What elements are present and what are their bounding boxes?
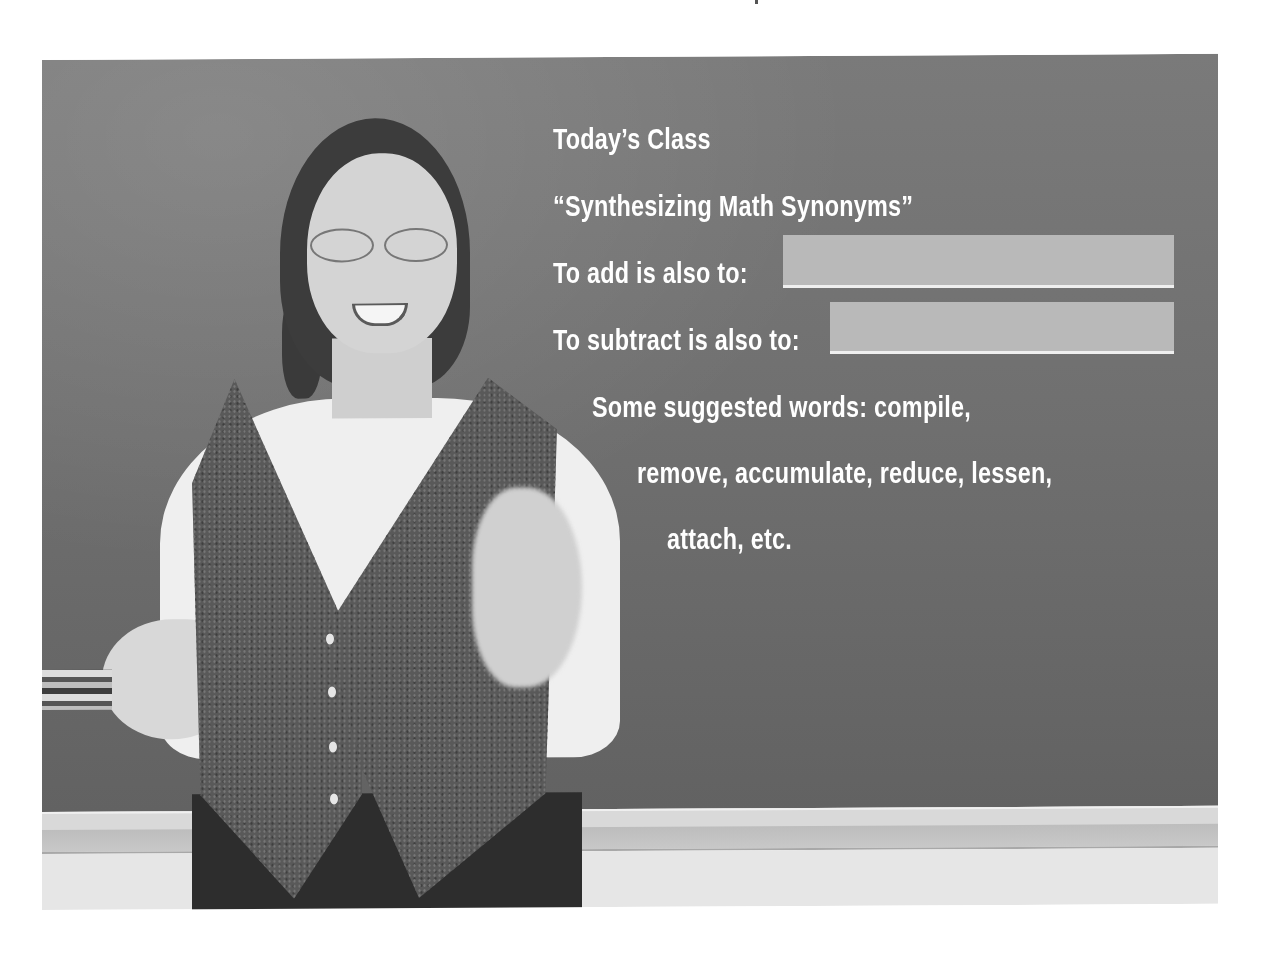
lesson-title: “Synthesizing Math Synonyms” bbox=[553, 191, 913, 221]
suggestions-line-3: attach, etc. bbox=[667, 524, 792, 554]
answer-subtract-blank[interactable] bbox=[830, 302, 1174, 354]
waving-hand bbox=[472, 487, 582, 688]
vest-button bbox=[330, 793, 338, 804]
suggestions-line-2: remove, accumulate, reduce, lessen, bbox=[637, 458, 1052, 488]
class-title: Today’s Class bbox=[553, 124, 711, 154]
vest-button bbox=[329, 741, 337, 752]
print-speck bbox=[755, 0, 758, 4]
vest-button bbox=[328, 686, 336, 697]
prompt-add: To add is also to: bbox=[553, 258, 748, 288]
answer-add-blank[interactable] bbox=[783, 235, 1174, 288]
suggestions-line-1: Some suggested words: compile, bbox=[592, 392, 971, 422]
prompt-subtract: To subtract is also to: bbox=[553, 325, 800, 355]
glasses-icon bbox=[310, 228, 450, 263]
eraser-icon bbox=[42, 670, 112, 710]
vest-button bbox=[326, 633, 334, 644]
